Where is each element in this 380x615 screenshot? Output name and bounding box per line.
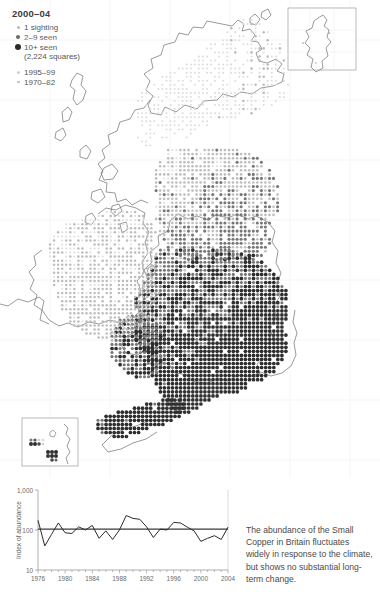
- shetland-inset: [288, 8, 356, 72]
- x-tick-label: 1984: [85, 575, 100, 582]
- y-tick-label: 10: [26, 567, 34, 574]
- chart-caption: The abundance of the Small Copper in Bri…: [246, 524, 374, 585]
- y-tick-label: 1,000: [17, 487, 33, 494]
- map-gridlines: [0, 0, 380, 478]
- y-axis-label: Index of abundance: [15, 501, 22, 559]
- x-tick-label: 1980: [58, 575, 73, 582]
- britain-ireland-distribution-map: [0, 0, 380, 478]
- distribution-dots: [49, 19, 289, 438]
- poster-root: 2000–04 1 sighting 2–9 seen 10+ seen (2,…: [0, 0, 380, 615]
- abundance-series: [38, 516, 228, 546]
- x-tick-label: 1976: [31, 575, 46, 582]
- channel-islands-inset: [22, 418, 78, 466]
- x-tick-label: 2000: [194, 575, 209, 582]
- abundance-chart: 1,00010010197619801984198819921996200020…: [12, 482, 240, 594]
- x-tick-label: 1988: [112, 575, 127, 582]
- abundance-chart-svg: 1,00010010197619801984198819921996200020…: [12, 482, 240, 594]
- x-tick-label: 1992: [139, 575, 154, 582]
- y-tick-label: 100: [22, 527, 33, 534]
- map-svg: [0, 0, 380, 478]
- x-tick-label: 1996: [167, 575, 182, 582]
- x-tick-label: 2004: [221, 575, 236, 582]
